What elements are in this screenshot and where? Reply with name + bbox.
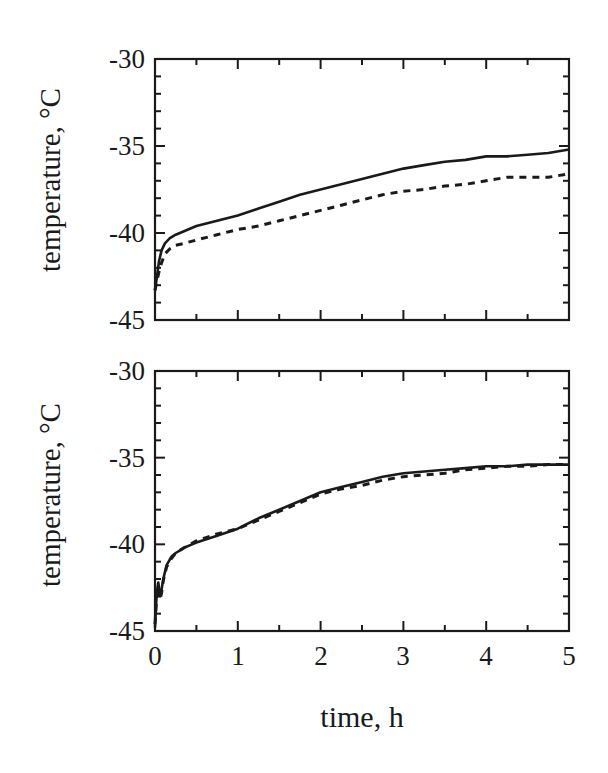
bottom-panel-series: [155, 465, 569, 628]
series-dashed-line: [155, 174, 569, 291]
xtick-label: 1: [231, 641, 245, 671]
series-solid-line: [155, 150, 569, 291]
bottom-panel: -30 -35 -40 -45 0 1 2 3 4 5 temperature,…: [34, 356, 576, 733]
x-axis-label: time, h: [320, 700, 403, 733]
bottom-panel-frame: [155, 371, 569, 631]
top-panel-ylabel: temperature, °C: [34, 88, 66, 272]
top-ytick-label: -35: [109, 131, 145, 161]
top-panel-ticks: [155, 59, 569, 320]
figure: -30 -35 -40 -45 temperature, °C -30 -35 …: [0, 0, 608, 773]
top-ytick-label: -45: [109, 305, 145, 335]
top-panel-frame: [155, 59, 569, 320]
bottom-ytick-label: -35: [109, 443, 145, 473]
top-panel-ytick-labels: -30 -35 -40 -45: [109, 44, 145, 335]
xtick-label: 5: [562, 641, 576, 671]
bottom-panel-ytick-labels: -30 -35 -40 -45: [109, 356, 145, 646]
bottom-ytick-label: -40: [109, 529, 145, 559]
bottom-ytick-label: -45: [109, 616, 145, 646]
bottom-panel-xtick-labels: 0 1 2 3 4 5: [148, 641, 576, 671]
bottom-panel-ylabel: temperature, °C: [34, 403, 66, 587]
series-dashed-line: [155, 465, 569, 624]
top-panel: -30 -35 -40 -45 temperature, °C: [34, 44, 569, 335]
top-ytick-label: -40: [109, 218, 145, 248]
bottom-panel-ticks: [155, 371, 569, 631]
series-solid-line: [155, 465, 569, 628]
xtick-label: 0: [148, 641, 162, 671]
top-ytick-label: -30: [109, 44, 145, 74]
bottom-ytick-label: -30: [109, 356, 145, 386]
top-panel-series: [155, 150, 569, 291]
xtick-label: 2: [314, 641, 328, 671]
xtick-label: 4: [479, 641, 493, 671]
xtick-label: 3: [396, 641, 410, 671]
